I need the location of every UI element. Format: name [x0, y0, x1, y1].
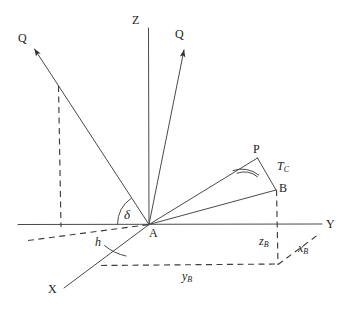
- ray-q-left: [35, 49, 150, 225]
- label-component-xb: xB: [298, 239, 308, 256]
- diagram-vector-layer: [0, 0, 350, 313]
- label-axis-z: Z: [132, 14, 139, 26]
- segment-a-b: [149, 190, 276, 225]
- segment-a-p: [149, 158, 258, 225]
- label-angle-tc-sub: C: [284, 165, 289, 174]
- label-q-left: Q: [18, 32, 27, 44]
- label-q-right: Q: [175, 28, 184, 40]
- geometry-diagram-canvas: Q Q Z Y X A P B δ h TC xB yB zB: [0, 0, 350, 313]
- label-component-zb-sub: B: [264, 240, 269, 249]
- label-component-xb-sub: B: [303, 247, 308, 256]
- dashed-yb: [101, 264, 278, 266]
- label-axis-y: Y: [326, 218, 335, 230]
- label-angle-tc: TC: [277, 157, 289, 174]
- dashed-vertical-left: [59, 86, 62, 227]
- label-angle-delta: δ: [124, 208, 130, 221]
- axis-z-line: [149, 28, 150, 225]
- label-point-a: A: [149, 227, 158, 239]
- dashed-vertical-zb: [277, 190, 279, 265]
- ray-q-right: [149, 50, 184, 225]
- axis-x-line: [64, 225, 149, 289]
- segment-p-b: [258, 158, 277, 190]
- label-component-yb-sub: B: [187, 275, 192, 284]
- label-axis-x: X: [48, 283, 57, 295]
- label-point-b: B: [279, 182, 287, 194]
- label-angle-h: h: [95, 236, 101, 248]
- axis-y-line: [18, 224, 322, 225]
- label-angle-tc-base: T: [277, 159, 284, 173]
- label-point-p: P: [253, 143, 260, 155]
- angle-arc-h: [105, 246, 127, 257]
- label-component-yb: yB: [182, 267, 192, 284]
- label-component-zb: zB: [259, 232, 269, 249]
